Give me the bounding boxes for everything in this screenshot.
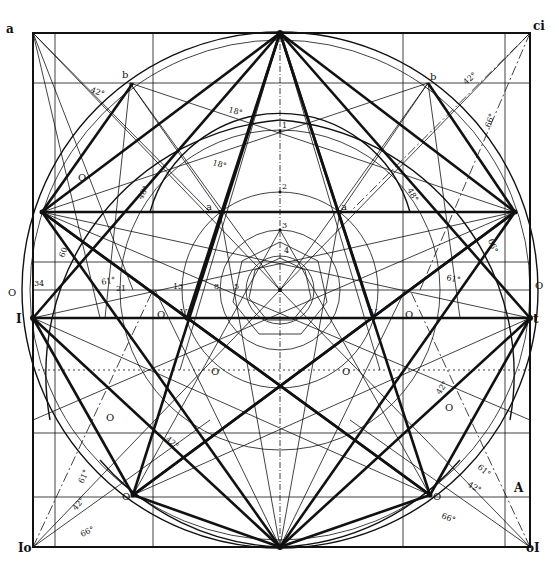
angle-label-lower-left-42: 42° xyxy=(164,435,181,451)
angle-label-top-right-66: 66° xyxy=(483,112,496,128)
angle-label-top-right-42: 42° xyxy=(462,71,479,87)
point-label-a-right: a xyxy=(341,201,347,212)
corner-label-top-left: a xyxy=(6,22,14,36)
point-label-A: A xyxy=(513,481,524,495)
point-label-o-right-mid: O xyxy=(445,402,453,413)
angle-label-bottom-right-66: 66° xyxy=(440,511,456,524)
angle-label-upper-18-b: 18° xyxy=(211,158,227,170)
point-label-a-left: a xyxy=(206,201,212,212)
corner-label-bottom-left: Io xyxy=(18,541,32,555)
point-label-v-left: V xyxy=(179,307,188,318)
point-label-o-bottom-right: O xyxy=(433,491,441,502)
row-number-21: 21 xyxy=(116,284,126,293)
row-number-5: 5 xyxy=(234,282,239,291)
row-label-34: 34 xyxy=(34,279,44,288)
heptagram-construction-diagram: a ci Io oI O I O t 34 b b a a V V O O O … xyxy=(0,0,559,566)
axis-number-2: 2 xyxy=(282,182,287,191)
point-label-b-left: b xyxy=(122,69,128,80)
point-label-o-left-arc: O xyxy=(78,172,86,183)
row-number-8: 8 xyxy=(214,282,219,291)
angle-label-left-61: 61° xyxy=(101,275,117,287)
angle-label-bottom-right-42: 42° xyxy=(466,480,483,495)
corner-label-bottom-right: oI xyxy=(526,541,540,555)
point-label-o-bottom-left: O xyxy=(122,491,130,502)
angle-label-bottom-right-61: 61° xyxy=(476,463,493,479)
point-label-o-left-inner: O xyxy=(157,309,165,320)
angle-label-upper-18-a: 18° xyxy=(227,105,243,117)
angle-label-right-61: 61° xyxy=(446,273,462,285)
row-number-13: 13 xyxy=(173,282,183,291)
axis-number-4: 4 xyxy=(284,246,289,255)
side-label-left-lower: I xyxy=(16,312,22,326)
axis-number-1: 1 xyxy=(282,121,287,130)
point-label-v-right: V xyxy=(369,307,378,318)
angle-label-top-left-42: 42° xyxy=(89,85,105,98)
point-label-o-left-mid: O xyxy=(106,412,114,423)
corner-label-top-right: ci xyxy=(533,19,545,33)
side-label-left-upper: O xyxy=(8,287,16,298)
point-label-o-right-inner: O xyxy=(405,309,413,320)
angle-label-bottom-left-61: 61° xyxy=(77,468,91,485)
point-label-o-right-low: O xyxy=(342,366,350,377)
angle-label-bottom-left-66: 66° xyxy=(79,525,96,539)
side-label-right-lower: t xyxy=(533,312,539,326)
axis-number-3: 3 xyxy=(282,221,287,230)
point-label-o-left-low: O xyxy=(211,366,219,377)
side-label-right-upper: O xyxy=(535,280,543,291)
point-label-b-right: b xyxy=(430,71,436,82)
